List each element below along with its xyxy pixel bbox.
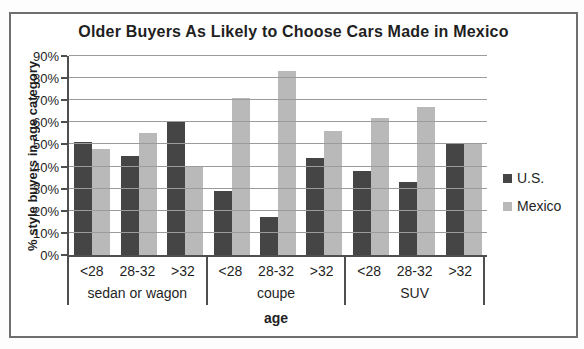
y-tick-50 xyxy=(61,143,67,145)
bar-mexico-sedan-or-wagon-28-32 xyxy=(139,133,157,255)
y-tick-30 xyxy=(61,188,67,190)
age-label-suv-28-32: 28-32 xyxy=(392,263,438,279)
mexico-series-marker-icon xyxy=(503,202,512,211)
age-label-sedan-or-wagon-lt28: <28 xyxy=(69,263,115,279)
legend-item-us: U.S. xyxy=(503,170,561,186)
age-row-suv: <2828-32>32 xyxy=(346,257,483,285)
vehicle-label-sedan-or-wagon: sedan or wagon xyxy=(69,285,206,305)
y-tick-70 xyxy=(61,99,67,101)
y-tick-10 xyxy=(61,232,67,234)
bar-group-coupe xyxy=(208,56,347,255)
y-tick-label-20: 20% xyxy=(33,204,59,217)
age-row-coupe: <2828-32>32 xyxy=(208,257,345,285)
bar-u-s-suv-gt32 xyxy=(446,144,464,255)
bar-u-s-sedan-or-wagon-28-32 xyxy=(121,156,139,256)
gridline-30 xyxy=(69,188,487,189)
bar-group-suv xyxy=(348,56,487,255)
age-label-suv-gt32: >32 xyxy=(437,263,483,279)
age-row-sedan-or-wagon: <2828-32>32 xyxy=(69,257,206,285)
bar-slot-suv-lt28 xyxy=(348,56,394,255)
y-tick-label-80: 80% xyxy=(33,72,59,85)
y-tick-label-30: 30% xyxy=(33,182,59,195)
bar-slot-sedan-or-wagon-lt28 xyxy=(69,56,115,255)
age-label-coupe-lt28: <28 xyxy=(208,263,254,279)
us-series-marker-icon xyxy=(503,174,512,183)
bar-u-s-sedan-or-wagon-gt32 xyxy=(167,122,185,255)
y-tick-60 xyxy=(61,121,67,123)
y-axis-labels: 0%10%20%30%40%50%60%70%80%90% xyxy=(11,56,63,255)
bar-slot-suv-28-32 xyxy=(394,56,440,255)
bar-u-s-sedan-or-wagon-lt28 xyxy=(74,142,92,255)
bar-u-s-coupe-28-32 xyxy=(260,217,278,255)
bar-mexico-suv-lt28 xyxy=(371,118,389,255)
x-axis-title: age xyxy=(67,310,485,326)
x-axis: <2828-32>32sedan or wagon<2828-32>32coup… xyxy=(67,257,485,305)
legend-item-mexico: Mexico xyxy=(503,198,561,214)
page: { "chart_data": { "type": "bar", "title"… xyxy=(0,0,584,349)
x-group-coupe: <2828-32>32coupe xyxy=(208,257,347,305)
bar-slot-sedan-or-wagon-gt32 xyxy=(162,56,208,255)
y-tick-80 xyxy=(61,77,67,79)
bars-layer xyxy=(69,56,487,255)
bar-mexico-suv-gt32 xyxy=(464,144,482,255)
bar-u-s-suv-lt28 xyxy=(353,171,371,255)
bar-slot-coupe-lt28 xyxy=(208,56,254,255)
y-tick-label-50: 50% xyxy=(33,138,59,151)
vehicle-label-suv: SUV xyxy=(346,285,483,305)
age-label-suv-lt28: <28 xyxy=(346,263,392,279)
legend-label-mexico: Mexico xyxy=(517,198,561,214)
age-label-sedan-or-wagon-28-32: 28-32 xyxy=(115,263,161,279)
bar-group-sedan-or-wagon xyxy=(69,56,208,255)
chart-frame: Older Buyers As Likely to Choose Cars Ma… xyxy=(9,12,578,338)
x-group-suv: <2828-32>32SUV xyxy=(346,257,485,305)
y-tick-label-60: 60% xyxy=(33,116,59,129)
legend: U.S. Mexico xyxy=(503,170,561,214)
gridline-10 xyxy=(69,232,487,233)
bar-slot-coupe-28-32 xyxy=(255,56,301,255)
y-tick-40 xyxy=(61,166,67,168)
vehicle-label-coupe: coupe xyxy=(208,285,345,305)
y-tick-20 xyxy=(61,210,67,212)
y-tick-label-10: 10% xyxy=(33,226,59,239)
y-tick-label-70: 70% xyxy=(33,94,59,107)
gridline-70 xyxy=(69,99,487,100)
bar-u-s-suv-28-32 xyxy=(399,182,417,255)
y-tick-label-0: 0% xyxy=(40,249,59,262)
bar-mexico-coupe-gt32 xyxy=(324,131,342,255)
y-tick-90 xyxy=(61,55,67,57)
bar-slot-sedan-or-wagon-28-32 xyxy=(115,56,161,255)
bar-u-s-coupe-lt28 xyxy=(214,191,232,255)
gridline-40 xyxy=(69,166,487,167)
bar-slot-suv-gt32 xyxy=(441,56,487,255)
gridline-60 xyxy=(69,121,487,122)
bar-u-s-coupe-gt32 xyxy=(306,158,324,255)
y-tick-label-40: 40% xyxy=(33,160,59,173)
bar-slot-coupe-gt32 xyxy=(301,56,347,255)
y-tick-label-90: 90% xyxy=(33,50,59,63)
age-label-coupe-gt32: >32 xyxy=(299,263,345,279)
plot-area xyxy=(67,56,487,257)
gridline-90 xyxy=(69,55,487,56)
bar-mexico-sedan-or-wagon-gt32 xyxy=(185,167,203,255)
gridline-20 xyxy=(69,210,487,211)
legend-label-us: U.S. xyxy=(517,170,544,186)
age-label-coupe-28-32: 28-32 xyxy=(253,263,299,279)
age-label-sedan-or-wagon-gt32: >32 xyxy=(160,263,206,279)
chart-title: Older Buyers As Likely to Choose Cars Ma… xyxy=(11,23,576,41)
gridline-80 xyxy=(69,77,487,78)
x-group-sedan-or-wagon: <2828-32>32sedan or wagon xyxy=(69,257,208,305)
gridline-50 xyxy=(69,143,487,144)
y-tick-0 xyxy=(61,254,67,256)
